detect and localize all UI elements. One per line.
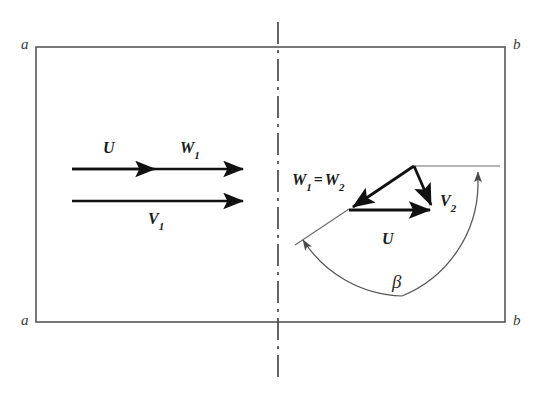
label-u-upstream-text: U (103, 139, 115, 156)
label-w1-equals-w2-first: W (292, 171, 306, 188)
corner-label-top-left: a (21, 37, 29, 52)
diagram-canvas (0, 0, 544, 401)
label-u-downstream-text: U (382, 230, 394, 247)
vector-v2-arrow (414, 166, 431, 205)
label-w1-equals-w2: W1=W2 (292, 172, 345, 191)
label-v1-text: V (148, 210, 159, 227)
vector-w-relative-arrow (353, 166, 414, 207)
label-u-downstream: U (382, 231, 394, 247)
label-w1-equals-w2-first-subscript: 1 (306, 181, 312, 193)
label-v1-subscript: 1 (159, 220, 165, 232)
corner-label-bottom-left: a (21, 313, 29, 328)
label-v1: V1 (148, 211, 164, 230)
label-v2: V2 (440, 193, 456, 212)
label-w1: W1 (180, 140, 200, 159)
duct-outline (36, 47, 505, 322)
label-w1-text: W (180, 139, 194, 156)
beta-arc-arrowhead-lower (303, 240, 402, 296)
corner-label-top-right: b (513, 37, 521, 52)
label-v2-text: V (440, 192, 451, 209)
label-u-upstream: U (103, 140, 115, 156)
velocity-triangle-figure: a b a b U W1 V1 W1=W2 V2 U β (0, 0, 544, 401)
corner-label-bottom-right: b (513, 313, 521, 328)
duct-rectangle (36, 47, 505, 322)
label-w1-equals-w2-second: W (325, 171, 339, 188)
label-v2-subscript: 2 (451, 202, 457, 214)
velocity-triangle (349, 166, 431, 210)
label-w1-equals-w2-operator: = (312, 171, 325, 188)
label-w1-equals-w2-second-subscript: 2 (339, 181, 345, 193)
label-w1-subscript: 1 (194, 149, 200, 161)
label-beta-angle: β (392, 272, 401, 291)
reference-line-relative-direction (295, 209, 349, 245)
